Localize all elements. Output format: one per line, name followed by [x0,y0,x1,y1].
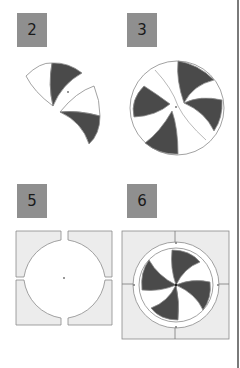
figure-5-frame [16,231,112,325]
diagram-canvas [0,0,240,368]
figure-2-wings [26,63,100,144]
figure-6-pinwheel [122,231,229,339]
figure-3-circle [130,61,224,155]
